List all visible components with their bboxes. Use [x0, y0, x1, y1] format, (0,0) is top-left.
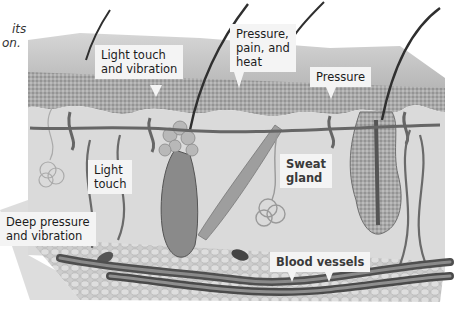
label-line: Sweat [286, 157, 326, 171]
label-pointer [234, 72, 244, 88]
label-line: and vibration [101, 62, 177, 76]
light-touch-receptor-body [161, 150, 198, 257]
label-line: pain, and [236, 41, 290, 55]
label-line: gland [286, 171, 326, 185]
label-deep-pressure-and-vibration: Deep pressure and vibration [0, 212, 96, 246]
caption-line: on. [2, 36, 26, 50]
label-sweat-gland: Sweat gland [280, 154, 332, 188]
caption-line: its [2, 22, 26, 36]
label-line: Pressure [316, 70, 365, 84]
label-line: Blood vessels [276, 255, 364, 269]
label-light-touch: Light touch [88, 160, 132, 194]
label-light-touch-and-vibration: Light touch and vibration [95, 45, 183, 79]
caption-fragment: its on. [2, 22, 26, 50]
label-pointer [326, 87, 336, 99]
label-line: Pressure, [236, 27, 290, 41]
label-line: and vibration [6, 229, 90, 243]
label-blood-vessels: Blood vessels [270, 252, 370, 272]
label-pressure-pain-heat: Pressure, pain, and heat [230, 24, 296, 72]
label-line: touch [94, 177, 126, 191]
label-line: Light touch [101, 48, 177, 62]
label-pointer [150, 85, 162, 97]
label-line: heat [236, 55, 290, 69]
label-pressure: Pressure [310, 67, 371, 87]
hair-root [376, 120, 378, 225]
label-pointer [325, 272, 333, 282]
hair-top [294, 2, 324, 36]
skin-cross-section-diagram: its on. Light touch and vibration Pressu… [0, 0, 460, 320]
label-line: Light [94, 163, 126, 177]
label-line: Deep pressure [6, 215, 90, 229]
label-pointer [288, 272, 296, 282]
